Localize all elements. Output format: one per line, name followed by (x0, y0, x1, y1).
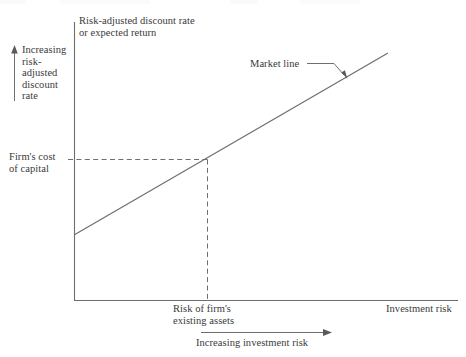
risk-of-existing-assets-label: Risk of firm's existing assets (173, 303, 293, 326)
market-line-series (74, 53, 388, 235)
y-axis-direction-label: Increasing risk- adjusted discount rate (22, 44, 72, 102)
x-axis-title: Investment risk (386, 303, 452, 315)
x-axis-direction-label: Increasing investment risk (196, 337, 308, 349)
y-axis-title: Risk-adjusted discount rateor expected r… (79, 15, 195, 38)
figure-canvas: Risk-adjusted discount rateor expected r… (0, 0, 466, 357)
market-line-leader (307, 64, 344, 76)
firm-cost-of-capital-label: Firm's cost of capital (9, 151, 71, 174)
market-line-annotation-label: Market line (250, 58, 299, 70)
y-axis-title-line1: Risk-adjusted discount rate (79, 15, 195, 26)
x-direction-arrow-head (323, 329, 332, 336)
y-axis-title-line2: or expected return (79, 27, 156, 38)
y-direction-arrow-head (11, 45, 18, 54)
